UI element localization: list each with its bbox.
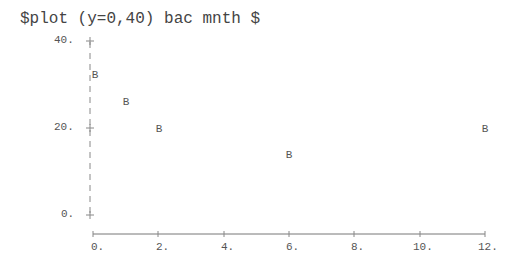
y-tick-label: 0. [61, 208, 74, 220]
x-tick-label: 4. [221, 241, 234, 253]
data-point-marker: B [286, 149, 293, 161]
data-point-marker: B [92, 69, 99, 81]
data-point-marker: B [123, 96, 130, 108]
x-tick-label: 2. [156, 241, 169, 253]
data-point-marker: B [156, 123, 163, 135]
x-tick-label: 12. [478, 241, 498, 253]
x-tick-label: 8. [351, 241, 364, 253]
data-point-marker: B [482, 123, 489, 135]
x-tick-label: 0. [91, 241, 104, 253]
y-tick-label: 20. [54, 121, 74, 133]
plot-axes [0, 0, 512, 268]
x-tick-label: 6. [286, 241, 299, 253]
y-tick-label: 40. [54, 34, 74, 46]
x-tick-label: 10. [413, 241, 433, 253]
